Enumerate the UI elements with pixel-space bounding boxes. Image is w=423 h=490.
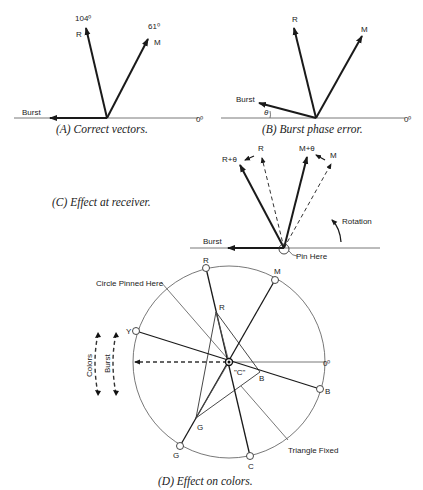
zero-degree-label: 0⁰: [196, 115, 203, 124]
burst-arrow-head-up: [113, 332, 119, 338]
pin-here-label: Pin Here: [296, 252, 328, 261]
center-pin-dot: [228, 361, 231, 364]
theta-arc: [270, 111, 271, 118]
vector-diagram-figure: 104⁰ R 61⁰ M Burst 0⁰ (A) Correct vector…: [0, 0, 423, 490]
inner-b-label: B: [259, 374, 264, 383]
m-label: M: [330, 151, 337, 160]
burst-label: Burst: [203, 237, 222, 246]
panel-c-caption: (C) Effect at receiver.: [52, 196, 151, 209]
inner-r-to-center: [216, 312, 229, 362]
r-label: R: [292, 15, 298, 24]
r-endpoint-marker: [203, 265, 210, 272]
colors-label: Colors: [85, 354, 94, 377]
r-plus-theta-arrow: [240, 165, 284, 248]
panel-d-caption: (D) Effect on colors.: [158, 475, 253, 488]
center-c-label: "C": [234, 368, 246, 377]
r-label: R: [76, 30, 82, 39]
r-shift-arrow: [245, 156, 254, 160]
y-endpoint-marker: [133, 328, 140, 335]
m-vector-arrow: [107, 39, 148, 118]
circle-pinned-leader-line: [161, 282, 227, 358]
panel-b-caption: (B) Burst phase error.: [262, 123, 363, 136]
m-plus-theta-arrow: [284, 157, 307, 248]
circle-pinned-here-label: Circle Pinned Here: [96, 279, 164, 288]
colors-arrow-head-up: [95, 332, 101, 338]
outer-y-label: Y: [126, 327, 132, 336]
m-endpoint-marker: [272, 277, 279, 284]
panel-a-correct-vectors: 104⁰ R 61⁰ M Burst 0⁰ (A) Correct vector…: [14, 14, 203, 136]
m-label: M: [154, 38, 161, 47]
theta-label: θ: [264, 108, 269, 117]
panel-a-caption: (A) Correct vectors.: [56, 123, 148, 136]
burst-label: Burst: [236, 95, 255, 104]
g-endpoint-marker: [177, 443, 184, 450]
outer-g-label: G: [173, 451, 179, 460]
inner-r-label: R: [219, 303, 225, 312]
panel-d-effect-on-colors: R M Y B G C R B G "C" 0⁰ Circle Pinned H…: [85, 256, 338, 488]
m-label: M: [361, 25, 368, 34]
m-original-dashed-arrow: [284, 164, 331, 248]
zero-degree-label: 0⁰: [323, 359, 330, 368]
c-endpoint-marker: [247, 453, 254, 460]
burst-label: Burst: [103, 354, 112, 373]
m-angle-label: 61⁰: [148, 22, 160, 31]
burst-arrow-head-down: [113, 390, 119, 396]
triangle-fixed-label: Triangle Fixed: [288, 446, 338, 455]
zero-degree-label: 0⁰: [404, 115, 411, 124]
inner-g-label: G: [197, 423, 203, 432]
rotation-label: Rotation: [342, 217, 372, 226]
rotation-arrow-icon: [332, 220, 341, 242]
outer-m-label: M: [274, 267, 281, 276]
r-label: R: [258, 144, 264, 153]
panel-c-effect-at-receiver: (C) Effect at receiver. R+θ R M+θ M Rota…: [52, 144, 380, 261]
r-vector-arrow: [86, 28, 107, 118]
triangle-fixed-leader-line: [241, 386, 288, 440]
r-angle-label: 104⁰: [75, 14, 91, 23]
outer-b-label: B: [325, 387, 330, 396]
r-plus-theta-label: R+θ: [222, 155, 237, 164]
outer-c-label: C: [248, 462, 254, 471]
colors-arrow-head-down: [95, 390, 101, 396]
m-vector-arrow: [316, 36, 362, 118]
m-shift-arrow: [316, 155, 325, 160]
panel-b-burst-phase-error: θ R M Burst 0⁰ (B) Burst phase error.: [221, 15, 411, 136]
r-original-dashed-arrow: [262, 158, 284, 248]
b-endpoint-marker: [317, 386, 324, 393]
m-plus-theta-label: M+θ: [299, 144, 315, 153]
burst-label: Burst: [22, 108, 41, 117]
r-vector-arrow: [294, 28, 316, 118]
outer-r-label: R: [203, 256, 209, 265]
colors-rotation-arrow: [95, 334, 98, 394]
burst-rotation-arrow: [113, 334, 116, 394]
